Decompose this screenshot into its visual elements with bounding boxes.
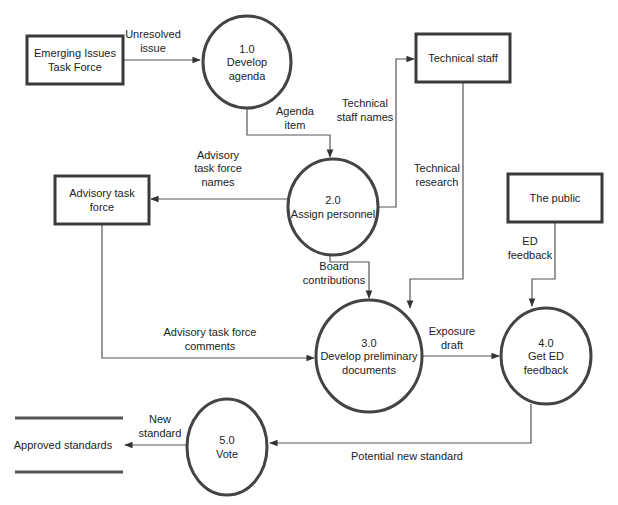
process-p1: 1.0Developagenda <box>203 16 291 108</box>
flow-label: New <box>149 413 171 425</box>
flow-f7: Boardcontributions <box>303 255 369 298</box>
flow-label: contributions <box>303 274 366 286</box>
flow-f9: Exposuredraft <box>422 325 499 356</box>
flow-f6: EDfeedback <box>508 222 555 306</box>
process-p2: 2.0Assign personnel <box>288 159 378 255</box>
entity-label: Technical staff <box>428 52 498 64</box>
data-flow-diagram: UnresolvedissueAgendaitemTechnicalstaff … <box>0 0 618 505</box>
process-label: feedback <box>524 364 569 376</box>
process-label: Develop preliminary <box>320 350 418 362</box>
flow-label: Technical <box>342 97 388 109</box>
entity-label: Task Force <box>48 61 102 73</box>
flow-label: staff names <box>337 111 394 123</box>
flow-f5: Technicalresearch <box>410 82 463 308</box>
flow-label: item <box>285 119 306 131</box>
entity-label: Emerging Issues <box>34 47 116 59</box>
flow-label: Board <box>319 260 348 272</box>
flow-arrow <box>270 404 531 443</box>
flow-f1: Unresolvedissue <box>123 28 200 60</box>
process-label: 5.0 <box>219 434 234 446</box>
store-label: Approved standards <box>14 439 113 451</box>
process-label: Develop <box>227 56 267 68</box>
process-label: agenda <box>229 70 267 82</box>
process-p3: 3.0Develop preliminarydocuments <box>316 300 422 412</box>
flow-f4: Advisorytask forcenames <box>151 149 288 200</box>
entity-atf: Advisory taskforce <box>55 176 149 224</box>
flow-label: feedback <box>508 249 553 261</box>
flow-label: task force <box>194 162 242 174</box>
flow-label: Unresolved <box>125 28 181 40</box>
flow-label: Exposure <box>429 325 475 337</box>
flow-label: Potential new standard <box>351 450 463 462</box>
process-label: Assign personnel <box>291 208 375 220</box>
process-label: documents <box>342 364 396 376</box>
flow-arrow <box>410 82 463 308</box>
process-label: Get ED <box>528 350 564 362</box>
data-store: Approved standards <box>14 418 123 472</box>
flow-label: standard <box>139 427 182 439</box>
flow-label: ED <box>522 235 537 247</box>
process-p5: 5.0Vote <box>187 399 267 495</box>
process-p4: 4.0Get EDfeedback <box>501 308 591 404</box>
flow-label: names <box>201 176 235 188</box>
flow-label: Agenda <box>276 105 315 117</box>
flow-f10: Potential new standard <box>270 404 531 462</box>
entity-public: The public <box>508 174 602 222</box>
flow-label: research <box>416 176 459 188</box>
dfd-canvas: UnresolvedissueAgendaitemTechnicalstaff … <box>0 0 618 505</box>
entity-label: Advisory task <box>69 187 135 199</box>
flow-label: Technical <box>414 162 460 174</box>
entity-tech: Technical staff <box>416 34 510 82</box>
process-label: 4.0 <box>538 337 553 349</box>
entity-label: The public <box>530 192 581 204</box>
flow-f11: Newstandard <box>125 413 187 445</box>
flow-label: issue <box>140 42 166 54</box>
flow-label: draft <box>441 339 463 351</box>
flow-label: Advisory task force <box>164 326 257 338</box>
flow-arrow <box>378 59 414 207</box>
flow-f2: Agendaitem <box>247 105 330 157</box>
flow-f8: Advisory task forcecomments <box>102 224 314 358</box>
flow-label: Advisory <box>197 149 240 161</box>
process-label: 3.0 <box>361 337 376 349</box>
flow-label: comments <box>185 340 236 352</box>
process-label: 1.0 <box>239 43 254 55</box>
process-label: 2.0 <box>325 194 340 206</box>
entity-label: force <box>90 201 114 213</box>
process-label: Vote <box>216 448 238 460</box>
entity-eitf: Emerging IssuesTask Force <box>27 36 123 84</box>
